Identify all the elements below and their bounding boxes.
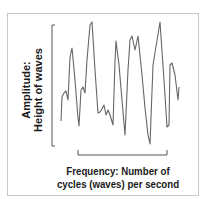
x-axis-label-line1: Frequency: Number of: [52, 165, 184, 178]
frequency-bracket: [78, 150, 167, 155]
wave-line: [61, 22, 179, 144]
amplitude-bracket: [52, 25, 55, 146]
y-axis-label: Amplitude: Height of waves: [15, 50, 49, 130]
x-axis-label: Frequency: Number of cycles (waves) per …: [52, 165, 184, 190]
y-axis-label-line2: Height of waves: [32, 48, 44, 132]
x-axis-label-line2: cycles (waves) per second: [52, 178, 184, 191]
y-axis-label-line1: Amplitude:: [20, 48, 32, 132]
